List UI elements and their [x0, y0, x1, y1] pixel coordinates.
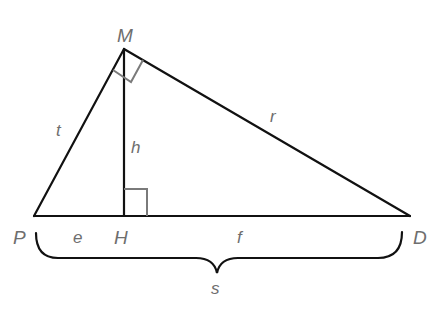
label-side-r: r	[270, 107, 277, 126]
side-md	[124, 49, 410, 216]
side-pm	[34, 49, 124, 216]
label-side-t: t	[56, 121, 62, 140]
label-vertex-p: P	[13, 227, 26, 248]
label-vertex-h: H	[114, 227, 128, 248]
label-side-e: e	[73, 228, 82, 247]
label-side-h: h	[131, 138, 140, 157]
label-vertex-m: M	[117, 25, 133, 46]
triangle-diagram: M P H D t r h e f s	[0, 0, 444, 314]
brace-s	[36, 232, 402, 273]
label-side-f: f	[237, 228, 244, 247]
label-side-s: s	[211, 279, 220, 298]
right-angle-marker-h	[124, 189, 147, 216]
label-vertex-d: D	[413, 227, 427, 248]
